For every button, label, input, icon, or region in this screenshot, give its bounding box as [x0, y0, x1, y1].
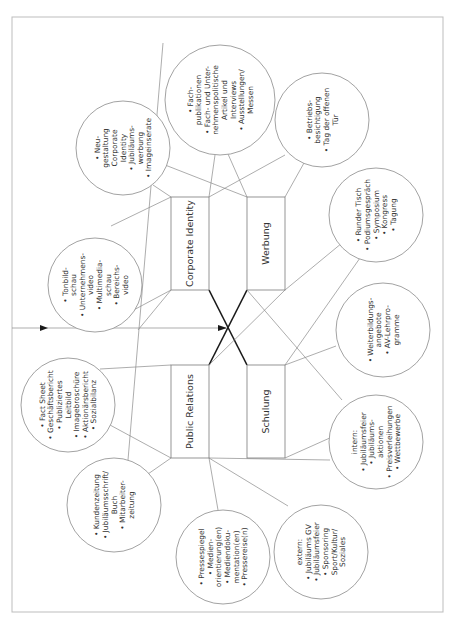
arrowhead-left-icon [40, 325, 48, 331]
circle-neugestaltung: • Neu-gestaltungCorporateIdentity• Jubil… [76, 101, 170, 195]
circle-presse: • Pressespiegel• Medien-orientierung(en)… [176, 510, 270, 604]
circle-text-line: • Wettbewerbe [393, 414, 402, 470]
circle-text-line: • Tagung [389, 198, 398, 232]
communication-tools-diagram: Corporate Identity Werbung Public Relati… [0, 0, 452, 622]
circle-text: • Fach-publikationen• Fach- und Unter-ne… [186, 65, 255, 135]
circle-text-line: Tür [331, 113, 340, 126]
circle-text-line: video [121, 274, 130, 295]
circle-weiterbildung: • Weiterbildungs-angebote• AV-Lehrpro-gr… [336, 283, 430, 377]
circle-fachpublikationen: • Fach-publikationen• Fach- und Unter-ne… [165, 45, 275, 155]
arrowhead-center-icon [218, 325, 227, 331]
box-schulung: Schulung [247, 365, 285, 458]
circle-extern: extern:• Jubiläums GV• Jubiläumsfeier• S… [274, 505, 368, 599]
box-public-relations: Public Relations [171, 365, 209, 458]
crossing-connector [209, 290, 247, 365]
circle-text-line: gramme [392, 314, 401, 346]
circle-betrieb: • Betriebs-besichtigung• Tag der offenen… [275, 73, 369, 167]
box-corporate-identity: Corporate Identity [171, 197, 209, 290]
box-label: Schulung [260, 389, 271, 433]
box-label: Werbung [260, 222, 271, 265]
circle-text-line: zeitung [127, 491, 136, 519]
circle-runder-tisch: • Runder Tisch• Podiumsgespräch• Symposi… [329, 168, 423, 262]
circle-text-line: • Imageinserate [144, 118, 153, 178]
input-arrow [12, 325, 227, 331]
circle-text-line: Soziales [338, 537, 347, 567]
circle-intern: intern:• Jubiläumsfeier• Jubiläums-aktio… [329, 395, 423, 489]
circle-text-line: Messen [246, 86, 255, 114]
circle-tonbild: • Tonbild-schau• Unternehmens-video• Mul… [48, 238, 142, 332]
circle-factsheet: • Fact Sheet• Geschäftsbericht• Publizie… [21, 358, 115, 452]
circle-text-line: • Sozialbilanz [89, 380, 98, 430]
box-werbung: Werbung [247, 197, 285, 290]
box-label: Public Relations [184, 374, 195, 449]
box-label: Corporate Identity [184, 200, 195, 287]
circle-text: • Pressespiegel• Medien-orientierung(en)… [197, 527, 249, 588]
circle-text-line: • Pressereise(n) [240, 527, 249, 586]
circle-kunden: • Kundenzeitung• Jubiläumsschrift/Buch• … [67, 458, 161, 552]
